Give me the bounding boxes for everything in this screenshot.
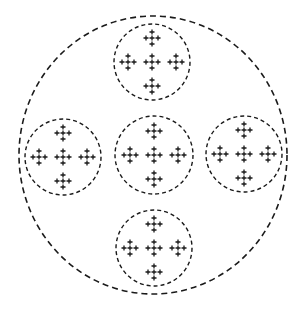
- plus-icon: [150, 90, 155, 95]
- plus-icon: [146, 246, 151, 251]
- plus-icon: [85, 149, 90, 154]
- inner-circle-right: [206, 116, 282, 192]
- plus-icon: [126, 54, 131, 59]
- plus-icon: [176, 252, 181, 257]
- plus-icon: [126, 60, 131, 65]
- plus-icon: [158, 153, 163, 158]
- plus-icon: [150, 42, 155, 47]
- plus-icon: [128, 159, 133, 164]
- plus-icon: [242, 152, 247, 157]
- plus-cluster-icon: [122, 147, 139, 164]
- plus-icon: [152, 264, 157, 269]
- plus-icon: [174, 66, 179, 71]
- plus-icon: [158, 270, 163, 275]
- plus-icon: [61, 125, 66, 130]
- plus-icon: [236, 128, 241, 133]
- plus-icon: [156, 84, 161, 89]
- plus-icon: [182, 246, 187, 251]
- plus-icon: [152, 240, 157, 245]
- inner-circle-left: [25, 119, 101, 195]
- plus-icon: [224, 152, 229, 157]
- plus-icon: [236, 176, 241, 181]
- plus-icon: [158, 246, 163, 251]
- plus-icon: [146, 177, 151, 182]
- inner-circles-group: [25, 24, 282, 286]
- plus-icon: [266, 158, 271, 163]
- plus-icon: [126, 66, 131, 71]
- plus-icon: [248, 128, 253, 133]
- plus-icon: [152, 276, 157, 281]
- plus-icon: [150, 78, 155, 83]
- plus-cluster-icon: [79, 149, 96, 166]
- plus-cluster-icon: [55, 149, 72, 166]
- plus-icon: [146, 270, 151, 275]
- plus-icon: [31, 155, 36, 160]
- plus-icon: [120, 60, 125, 65]
- plus-icon: [170, 246, 175, 251]
- plus-icon: [260, 152, 265, 157]
- plus-icon: [67, 155, 72, 160]
- plus-icon: [176, 147, 181, 152]
- plus-icon: [61, 149, 66, 154]
- plus-icon: [152, 135, 157, 140]
- plus-icon: [37, 161, 42, 166]
- plus-icon: [122, 153, 127, 158]
- plus-cluster-icon: [146, 147, 163, 164]
- plus-cluster-icon: [120, 54, 137, 71]
- plus-icon: [236, 152, 241, 157]
- plus-icon: [182, 153, 187, 158]
- plus-icon: [128, 246, 133, 251]
- plus-icon: [152, 246, 157, 251]
- plus-icon: [61, 131, 66, 136]
- plus-icon: [144, 36, 149, 41]
- plus-icon: [242, 182, 247, 187]
- plus-icon: [152, 216, 157, 221]
- plus-icon: [176, 159, 181, 164]
- plus-icon: [79, 155, 84, 160]
- plus-icon: [128, 252, 133, 257]
- plus-icon: [248, 152, 253, 157]
- plus-icon: [37, 149, 42, 154]
- plus-icon: [146, 129, 151, 134]
- plus-icon: [146, 222, 151, 227]
- plus-cluster-icon: [170, 240, 187, 257]
- plus-icon: [144, 84, 149, 89]
- plus-icon: [134, 246, 139, 251]
- plus-icon: [122, 246, 127, 251]
- plus-icon: [242, 134, 247, 139]
- plus-cluster-icon: [144, 78, 161, 95]
- plus-icon: [37, 155, 42, 160]
- plus-cluster-icon: [122, 240, 139, 257]
- plus-icon: [180, 60, 185, 65]
- plus-icon: [176, 246, 181, 251]
- plus-cluster-icon: [144, 54, 161, 71]
- plus-cluster-icon: [146, 123, 163, 140]
- inner-circle-center: [115, 116, 193, 194]
- plus-cluster-icon: [144, 30, 161, 47]
- plus-icon: [218, 158, 223, 163]
- diagram-canvas: [0, 0, 302, 309]
- plus-icon: [156, 36, 161, 41]
- plus-icon: [176, 240, 181, 245]
- plus-icon: [242, 158, 247, 163]
- plus-icon: [156, 60, 161, 65]
- plus-icon: [150, 30, 155, 35]
- plus-icon: [176, 153, 181, 158]
- plus-cluster-icon: [55, 173, 72, 190]
- plus-icon: [212, 152, 217, 157]
- plus-cluster-icon: [146, 240, 163, 257]
- plus-icon: [152, 129, 157, 134]
- plus-icon: [61, 173, 66, 178]
- plus-icon: [55, 155, 60, 160]
- plus-icon: [128, 147, 133, 152]
- plus-icon: [61, 185, 66, 190]
- plus-icon: [150, 60, 155, 65]
- plus-icon: [152, 147, 157, 152]
- plus-icon: [242, 122, 247, 127]
- plus-icon: [242, 128, 247, 133]
- plus-icon: [168, 60, 173, 65]
- plus-icon: [150, 66, 155, 71]
- plus-cluster-icon: [236, 122, 253, 139]
- plus-icon: [61, 137, 66, 142]
- plus-icon: [150, 84, 155, 89]
